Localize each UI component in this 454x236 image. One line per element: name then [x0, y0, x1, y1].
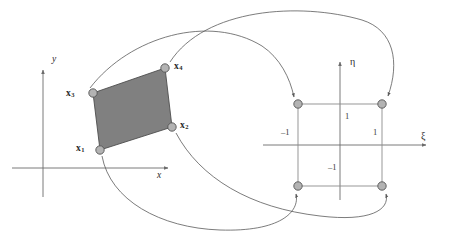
node-marker-x3 — [89, 89, 97, 97]
node-label-x2-subscript: 2 — [185, 123, 189, 130]
map-curve-x1-to-n1 — [102, 156, 296, 230]
node-label-x2: x2 — [180, 121, 189, 131]
node-marker-x1 — [96, 146, 104, 154]
y-axis-label: y — [52, 55, 56, 65]
tick-label-xi-neg-one: –1 — [281, 128, 290, 137]
map-curve-x2-to-n2 — [176, 133, 386, 218]
node-marker-n3 — [294, 100, 302, 108]
node-marker-n2 — [378, 182, 386, 190]
xi-axis-label: ξ — [421, 131, 425, 141]
figure-canvas — [0, 0, 454, 236]
node-marker-n1 — [294, 182, 302, 190]
quadrilateral-element — [93, 68, 172, 150]
node-label-x1: x1 — [76, 144, 85, 154]
node-marker-x2 — [168, 123, 176, 131]
x-axis-label: x — [157, 171, 161, 181]
node-label-x4-subscript: 4 — [179, 64, 183, 71]
node-label-x3: x3 — [66, 89, 75, 99]
node-label-x4: x4 — [174, 62, 183, 72]
node-marker-n4 — [378, 100, 386, 108]
tick-label-xi-pos-one: 1 — [373, 128, 377, 137]
map-curve-x4-to-n4 — [170, 11, 394, 96]
node-label-x1-subscript: 1 — [81, 146, 85, 153]
tick-label-eta-pos-one: 1 — [345, 112, 349, 121]
tick-label-eta-neg-one: –1 — [328, 163, 337, 172]
node-marker-x4 — [161, 64, 169, 72]
node-label-x3-subscript: 3 — [71, 91, 75, 98]
eta-axis-label: η — [350, 57, 355, 67]
element-face — [93, 68, 172, 150]
isoparametric-mapping-figure: y x x1 x2 x3 x4 η ξ –1 1 1 –1 — [0, 0, 454, 236]
